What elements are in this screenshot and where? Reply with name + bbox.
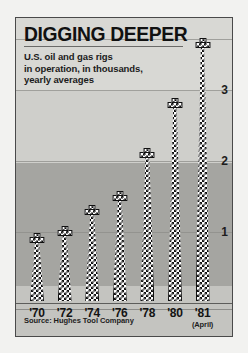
x-tick-label-y81: '81(April) bbox=[189, 307, 217, 329]
derrick-mast-icon bbox=[58, 230, 72, 301]
derrick-mast-icon bbox=[140, 152, 154, 301]
chart-header: DIGGING DEEPER U.S. oil and gas rigs in … bbox=[24, 22, 194, 86]
derrick-crown-icon bbox=[144, 148, 151, 153]
y-tick-label-2: 2 bbox=[221, 155, 228, 167]
bar-y76[interactable] bbox=[113, 195, 127, 302]
derrick-crown-icon bbox=[116, 191, 123, 196]
chart-title: DIGGING DEEPER bbox=[24, 22, 180, 45]
chart-figure: DIGGING DEEPER U.S. oil and gas rigs in … bbox=[0, 0, 248, 353]
subtitle-line-2: in operation, in thousands, bbox=[24, 63, 194, 75]
y-tick-label-1: 1 bbox=[221, 226, 228, 238]
source-note: Source: Hughes Tool Company bbox=[24, 316, 134, 325]
x-tick-label-y80: '80 bbox=[161, 307, 189, 320]
subtitle-line-3: yearly averages bbox=[24, 74, 194, 86]
derrick-crown-icon bbox=[34, 233, 41, 238]
x-tick-note: (April) bbox=[189, 320, 217, 329]
derrick-mast-icon bbox=[113, 195, 127, 302]
derrick-crown-icon bbox=[89, 205, 96, 210]
bar-y81[interactable] bbox=[196, 42, 210, 301]
bar-y74[interactable] bbox=[85, 209, 99, 301]
bar-y72[interactable] bbox=[58, 230, 72, 301]
chart-panel: DIGGING DEEPER U.S. oil and gas rigs in … bbox=[15, 17, 233, 337]
derrick-crown-icon bbox=[61, 226, 68, 231]
derrick-mast-icon bbox=[85, 209, 99, 301]
bar-y70[interactable] bbox=[30, 237, 44, 301]
y-tick-label-3: 3 bbox=[221, 84, 228, 96]
bar-y78[interactable] bbox=[140, 152, 154, 301]
derrick-mast-icon bbox=[168, 102, 182, 301]
derrick-crown-icon bbox=[172, 98, 179, 103]
bar-y80[interactable] bbox=[168, 102, 182, 301]
chart-subtitle: U.S. oil and gas rigs in operation, in t… bbox=[24, 51, 194, 86]
x-tick-label-y78: '78 bbox=[134, 307, 162, 320]
derrick-mast-icon bbox=[30, 237, 44, 301]
subtitle-line-1: U.S. oil and gas rigs bbox=[24, 51, 194, 63]
title-divider bbox=[24, 46, 183, 47]
derrick-crown-icon bbox=[199, 38, 206, 43]
derrick-mast-icon bbox=[196, 42, 210, 301]
